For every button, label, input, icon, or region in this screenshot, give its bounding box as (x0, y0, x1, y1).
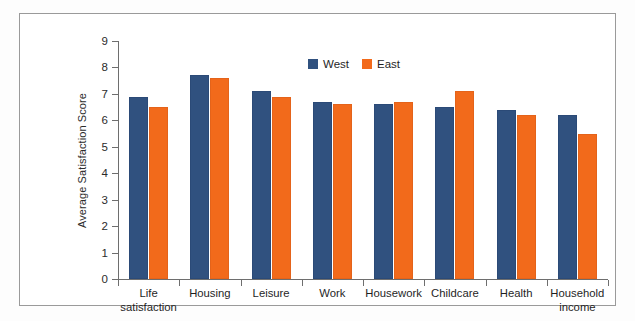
bar-east-2[interactable] (272, 97, 291, 279)
y-tick-label: 0 (102, 271, 108, 287)
y-tick: 5 (112, 147, 118, 148)
y-tick-label: 6 (102, 112, 108, 128)
y-tick-mark (112, 67, 118, 68)
y-tick: 3 (112, 200, 118, 201)
y-tick: 4 (112, 173, 118, 174)
y-tick-mark (112, 147, 118, 148)
bar-east-3[interactable] (333, 104, 352, 279)
y-tick-mark (112, 120, 118, 121)
chart-figure: Average Satisfaction Score West East 012… (0, 0, 635, 321)
y-tick-mark (112, 173, 118, 174)
y-tick-label: 8 (102, 59, 108, 75)
bar-west-2[interactable] (252, 91, 271, 279)
bar-east-6[interactable] (517, 115, 536, 279)
bar-west-1[interactable] (190, 75, 209, 279)
y-tick-mark (112, 226, 118, 227)
y-tick: 2 (112, 226, 118, 227)
y-tick-mark (112, 253, 118, 254)
bar-east-4[interactable] (394, 102, 413, 279)
bar-west-5[interactable] (435, 107, 454, 279)
bar-east-1[interactable] (210, 78, 229, 279)
y-tick: 1 (112, 253, 118, 254)
y-tick: 9 (112, 41, 118, 42)
y-tick-label: 7 (102, 86, 108, 102)
y-tick-label: 5 (102, 139, 108, 155)
y-tick: 7 (112, 94, 118, 95)
y-tick-label: 3 (102, 192, 108, 208)
plot-area: 0123456789 (118, 41, 608, 280)
bar-west-0[interactable] (129, 97, 148, 279)
bar-west-4[interactable] (374, 104, 393, 279)
y-axis-line (118, 41, 119, 280)
bar-east-7[interactable] (578, 134, 597, 279)
y-tick-label: 9 (102, 33, 108, 49)
y-tick-mark (112, 41, 118, 42)
y-tick-label: 4 (102, 165, 108, 181)
y-tick-mark (112, 94, 118, 95)
bar-east-0[interactable] (149, 107, 168, 279)
bar-west-7[interactable] (558, 115, 577, 279)
y-tick-label: 1 (102, 245, 108, 261)
bar-east-5[interactable] (455, 91, 474, 279)
y-tick-label: 2 (102, 218, 108, 234)
y-tick: 8 (112, 67, 118, 68)
bar-west-3[interactable] (313, 102, 332, 279)
y-tick: 6 (112, 120, 118, 121)
x-category-label: Household income (539, 286, 616, 314)
bar-west-6[interactable] (497, 110, 516, 279)
y-axis-title: Average Satisfaction Score (76, 41, 92, 280)
y-tick-mark (112, 200, 118, 201)
chart-frame-border: Average Satisfaction Score West East 012… (19, 13, 616, 306)
